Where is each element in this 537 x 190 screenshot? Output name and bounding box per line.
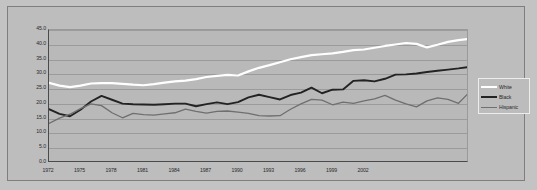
y-tick-label: 0.0 (10, 159, 46, 164)
y-tick-label: 15.0 (10, 115, 46, 120)
legend-swatch-black (481, 96, 497, 98)
legend-label: Black (499, 94, 511, 100)
legend-label: White (499, 84, 512, 90)
x-tick-label: 1999 (326, 167, 337, 173)
x-tick-label: 2002 (357, 167, 368, 173)
x-tick-label: 1996 (294, 167, 305, 173)
legend-item-white: White (481, 82, 527, 92)
y-tick-label: 25.0 (10, 85, 46, 90)
x-tick-label: 1990 (231, 167, 242, 173)
series-line-black (49, 67, 468, 116)
legend-swatch-white (481, 86, 497, 88)
y-tick-label: 40.0 (10, 41, 46, 46)
x-tick-label: 1993 (263, 167, 274, 173)
legend-item-hispanic: Hispanic (481, 102, 527, 112)
legend-label: Hispanic (499, 104, 518, 110)
chart-figure: 45.040.035.030.025.020.015.010.05.00.0 1… (0, 0, 537, 190)
series-lines (49, 30, 468, 162)
x-tick-label: 1984 (168, 167, 179, 173)
series-line-hispanic (49, 93, 468, 124)
y-tick-label: 5.0 (10, 144, 46, 149)
y-tick-label: 35.0 (10, 56, 46, 61)
y-tick-label: 20.0 (10, 100, 46, 105)
chart-legend: WhiteBlackHispanic (478, 78, 530, 114)
x-tick-label: 1975 (74, 167, 85, 173)
x-tick-label: 1972 (42, 167, 53, 173)
x-tick-label: 1981 (137, 167, 148, 173)
y-tick-label: 45.0 (10, 26, 46, 31)
y-axis: 45.040.035.030.025.020.015.010.05.00.0 (8, 29, 46, 162)
x-axis: 1972197519781981198419871990199319961999… (48, 167, 468, 179)
x-tick-label: 1978 (105, 167, 116, 173)
y-tick-label: 10.0 (10, 129, 46, 134)
series-line-white (49, 39, 468, 87)
x-tick-label: 1987 (200, 167, 211, 173)
y-tick-label: 30.0 (10, 70, 46, 75)
legend-item-black: Black (481, 92, 527, 102)
legend-swatch-hispanic (481, 107, 497, 108)
plot-area (48, 29, 468, 162)
chart-frame: 45.040.035.030.025.020.015.010.05.00.0 1… (7, 6, 525, 181)
